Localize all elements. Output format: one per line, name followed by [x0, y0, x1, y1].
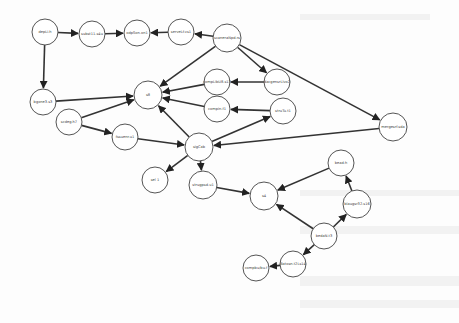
node-label: odpSon.on1: [126, 31, 147, 35]
graph-node[interactable]: sigCab: [185, 133, 213, 161]
background-bands: [300, 14, 459, 308]
edge-n18-n17: [278, 168, 329, 190]
edge-n7-n6: [163, 84, 204, 92]
graph-node[interactable]: s4: [250, 182, 278, 210]
node-label: blaugsr32.s16: [344, 202, 370, 206]
node-label: bedaN.t3: [316, 234, 333, 238]
graph-node[interactable]: scaneraNpd.rs: [213, 24, 241, 52]
graph-node[interactable]: strugpsd.u1: [189, 171, 217, 199]
node-label: compLibU8.s13: [203, 80, 231, 84]
graph-node[interactable]: struTu.t1: [270, 98, 296, 124]
node-label: sel 1: [151, 178, 160, 182]
graph-node[interactable]: bead:h: [328, 150, 354, 176]
edge-n16-n17: [217, 187, 249, 193]
edge-n12-n13: [138, 139, 184, 145]
node-label: fssuenr.u1: [116, 135, 135, 139]
edge-n0-n1: [58, 33, 78, 34]
edge-n14-n13: [214, 128, 379, 145]
graph-node[interactable]: sel 1: [142, 167, 168, 193]
edge-n20-n19: [333, 214, 346, 227]
edge-n19-n18: [346, 176, 352, 191]
node-label: serveLf.vs1: [171, 30, 191, 34]
edge-n11-n6: [81, 100, 134, 118]
edge-n11-n12: [82, 125, 112, 133]
edge-n13-n16: [200, 161, 201, 170]
edge-n13-n6: [159, 106, 190, 137]
band: [300, 300, 459, 308]
graph-node[interactable]: serveLf.vs1: [168, 19, 194, 45]
graph-node[interactable]: depLi.h: [32, 19, 58, 45]
node-label: s4: [262, 194, 267, 198]
edge-n9-n6: [163, 98, 205, 106]
edge-n5-n6: [56, 96, 133, 101]
edge-n20-n21: [303, 245, 314, 255]
edge-n4-n3: [195, 34, 213, 36]
node-label: compbu/bu.f: [245, 266, 268, 270]
band: [300, 276, 459, 286]
graph-node[interactable]: mergesrf.sda: [379, 113, 407, 141]
edge-n0-n5: [43, 45, 44, 88]
graph-node[interactable]: fssuenr.u1: [112, 124, 138, 150]
node-label: subst11.s4u: [81, 32, 103, 36]
graph-canvas: depLi.hsubst11.s4uodpSon.on1serveLf.vs1s…: [0, 0, 459, 323]
edge-n20-n17: [276, 204, 313, 228]
node-label: scaneraNpd.rs: [214, 36, 240, 40]
graph-node[interactable]: bgxne3.s3: [30, 89, 56, 115]
edge-n10-n9: [231, 109, 270, 110]
graph-node[interactable]: odpSon.on1: [124, 20, 150, 46]
graph-node[interactable]: subst11.s4u: [79, 21, 105, 47]
graph-node[interactable]: Batosn.t2Ls14: [280, 251, 307, 277]
node-label: sigCab: [193, 145, 206, 149]
graph-node[interactable]: compin.f1: [204, 96, 230, 122]
edge-n13-n15: [166, 155, 188, 171]
band: [300, 190, 459, 196]
node-label: compin.f1: [208, 107, 226, 111]
edge-n21-n22: [270, 265, 280, 266]
node-label: dacgensrLlvo2: [264, 80, 290, 84]
graph-node[interactable]: compbu/bu.f: [243, 255, 269, 281]
graph-node[interactable]: s8: [134, 81, 162, 109]
graph-node[interactable]: bedaN.t3: [311, 223, 337, 249]
node-label: Batosn.t2Ls14: [280, 262, 306, 266]
node-label: struTu.t1: [275, 109, 291, 113]
graph-node[interactable]: blaugsr32.s16: [343, 190, 371, 218]
graph-node[interactable]: scdeg.h7: [56, 109, 82, 135]
node-label: s8: [146, 93, 151, 97]
graph-node[interactable]: dacgensrLlvo2: [264, 69, 290, 95]
band: [300, 14, 430, 20]
node-label: scdeg.h7: [61, 120, 77, 124]
node-label: mergesrf.sda: [381, 125, 404, 129]
node-label: depLi.h: [38, 30, 51, 34]
node-label: bead:h: [335, 161, 347, 165]
node-label: strugpsd.u1: [192, 183, 213, 187]
nodes-layer: depLi.hsubst11.s4uodpSon.on1serveLf.vs1s…: [30, 19, 407, 281]
node-label: bgxne3.s3: [34, 100, 53, 104]
graph-node[interactable]: compLibU8.s13: [203, 69, 231, 95]
